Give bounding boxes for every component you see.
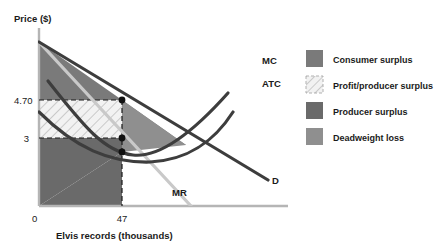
legend: Consumer surplus Profit/producer surplus… — [306, 50, 433, 145]
consumer-surplus-swatch — [306, 50, 323, 67]
x-tick-label-0: 0 — [32, 213, 37, 224]
monopoly-graph: Price ($) Elvis records (thousands) 4.70… — [0, 0, 443, 244]
profit-surplus-swatch — [306, 76, 323, 93]
legend-item-label-1: Profit/producer surplus — [333, 81, 433, 91]
mr-curve-label: MR — [172, 187, 187, 198]
monopoly-price-marker — [119, 97, 126, 104]
legend-item-label-2: Producer surplus — [333, 107, 408, 117]
y-axis-title: Price ($) — [14, 13, 52, 24]
figure-root: Price ($) Elvis records (thousands) 4.70… — [0, 0, 443, 244]
y-tick-label-3: 3 — [24, 133, 29, 144]
x-tick-label-47: 47 — [117, 213, 128, 224]
mc-mr-marker — [119, 149, 126, 156]
atc-marker — [119, 135, 126, 142]
legend-item-label-0: Consumer surplus — [333, 55, 413, 65]
producer-surplus-swatch — [306, 102, 323, 119]
demand-curve-label: D — [272, 175, 279, 186]
y-tick-label-470: 4.70 — [14, 95, 33, 106]
legend-item-label-3: Deadweight loss — [333, 133, 404, 143]
atc-curve-label: ATC — [262, 78, 281, 89]
x-axis-title: Elvis records (thousands) — [56, 230, 173, 241]
mc-curve-label: MC — [262, 55, 277, 66]
deadweight-loss-swatch — [306, 128, 323, 145]
